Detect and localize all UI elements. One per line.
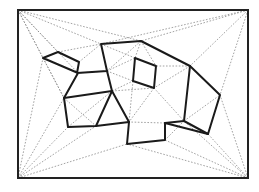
dotted-edge <box>107 41 141 71</box>
solid-edge <box>165 121 184 123</box>
dotted-edge <box>220 10 248 95</box>
dotted-triangulation-lines <box>18 10 248 178</box>
dotted-edge <box>18 58 43 178</box>
dotted-edge <box>129 88 154 122</box>
dotted-edge <box>101 44 135 58</box>
dotted-edge <box>58 44 101 52</box>
triangulation-diagram <box>0 0 259 192</box>
dotted-edge <box>154 66 190 88</box>
dotted-edge <box>112 88 154 91</box>
dotted-edge <box>101 10 248 44</box>
dotted-edge <box>18 10 101 44</box>
dotted-edge <box>18 126 96 178</box>
dotted-edge <box>129 122 165 123</box>
dotted-edge <box>112 81 133 91</box>
bounding-rectangle <box>18 10 248 178</box>
dotted-edge <box>220 95 248 178</box>
dotted-edge <box>154 88 184 121</box>
dotted-edge <box>127 144 248 178</box>
dotted-edge <box>184 95 220 121</box>
solid-edge <box>107 71 112 91</box>
dotted-edge <box>141 10 248 41</box>
inner-polygon-hole <box>133 58 156 88</box>
solid-edge <box>184 121 208 134</box>
dotted-edge <box>165 140 248 178</box>
solid-edge <box>64 91 112 98</box>
dotted-edge <box>18 10 78 73</box>
solid-edge <box>96 91 112 126</box>
dotted-edge <box>43 58 64 98</box>
dotted-edge <box>79 44 101 62</box>
dotted-edge <box>107 71 133 81</box>
solid-edge <box>184 66 190 121</box>
dotted-edge <box>64 98 96 126</box>
dotted-edge <box>208 134 248 178</box>
dotted-edge <box>107 58 135 71</box>
dotted-edge <box>18 10 141 41</box>
solid-edge <box>112 91 129 122</box>
dotted-edge <box>129 81 133 122</box>
